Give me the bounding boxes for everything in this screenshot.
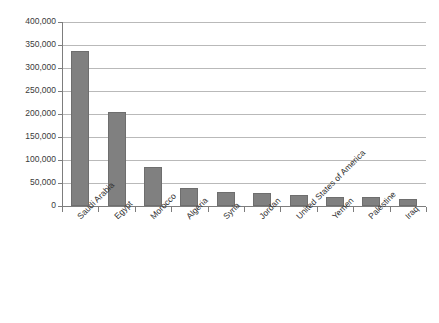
- bar-chart: Number of ... in Arab Countries 050,0001…: [0, 0, 439, 323]
- y-axis-tick-label: 200,000: [25, 108, 56, 118]
- y-axis-tick-label: 100,000: [25, 154, 56, 164]
- x-axis-tick: [317, 207, 318, 212]
- bar[interactable]: [71, 51, 89, 206]
- x-axis-tick: [208, 207, 209, 212]
- x-axis-tick: [135, 207, 136, 212]
- x-axis-tick: [390, 207, 391, 212]
- x-axis-tick: [62, 207, 63, 212]
- bar[interactable]: [144, 167, 162, 206]
- x-axis-tick: [171, 207, 172, 212]
- y-axis-labels: 050,000100,000150,000200,000250,000300,0…: [0, 0, 56, 323]
- x-axis-tick: [353, 207, 354, 212]
- y-axis-tick-label: 250,000: [25, 85, 56, 95]
- y-axis-tick-label: 350,000: [25, 39, 56, 49]
- y-axis-tick-label: 400,000: [25, 16, 56, 26]
- y-axis-tick-label: 50,000: [30, 177, 56, 187]
- y-axis-tick-label: 300,000: [25, 62, 56, 72]
- plot-area: [62, 22, 426, 206]
- x-axis-tick: [426, 207, 427, 212]
- x-axis-tick: [244, 207, 245, 212]
- y-axis-tick-label: 0: [51, 200, 56, 210]
- x-axis-tick: [98, 207, 99, 212]
- x-axis-tick: [280, 207, 281, 212]
- y-axis-tick-label: 150,000: [25, 131, 56, 141]
